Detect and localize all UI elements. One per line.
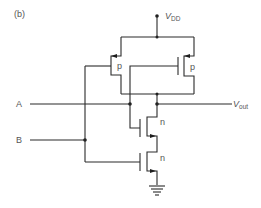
panel-label: (b) — [14, 9, 25, 19]
ground-icon — [149, 186, 165, 195]
p-right-label: p — [190, 62, 195, 72]
arrow-icon — [111, 54, 117, 58]
vdd-label: VDD — [165, 11, 181, 22]
p-transistor-right: p — [178, 37, 195, 94]
arrow-icon — [150, 169, 156, 173]
p-right-gate-wire — [130, 66, 178, 104]
p-left-label: p — [117, 61, 122, 71]
n-top-gate-wire — [130, 104, 140, 128]
vout-label: Vout — [233, 99, 248, 110]
n-transistor-bottom: n — [140, 148, 165, 185]
n-transistor-top: n — [140, 104, 165, 148]
input-a-label: A — [16, 99, 22, 109]
arrow-icon — [184, 54, 190, 58]
arrow-icon — [150, 134, 156, 138]
input-b-label: B — [16, 135, 22, 145]
n-bottom-label: n — [160, 153, 165, 163]
p-transistor-left: p — [111, 37, 122, 94]
n-top-label: n — [160, 117, 165, 127]
circuit-diagram: (b) VDD p p Vout A B — [0, 0, 261, 208]
